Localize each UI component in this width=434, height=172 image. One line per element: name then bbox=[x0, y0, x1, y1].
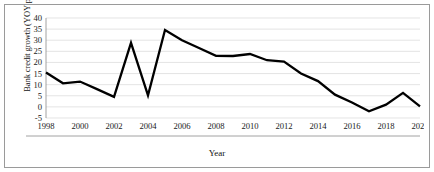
x-tick-label: 2016 bbox=[343, 121, 361, 131]
y-tick-label: 35 bbox=[33, 24, 42, 34]
y-tick-label: 10 bbox=[33, 80, 42, 90]
y-tick-label: 15 bbox=[33, 69, 42, 79]
chart-figure: Bank credit growth (YOY per cent) 403530… bbox=[0, 0, 434, 172]
x-tick-label: 2000 bbox=[71, 121, 88, 131]
y-tick-label: 0 bbox=[38, 102, 42, 112]
line-chart-svg: 4035302520151050-5 199820002002200420062… bbox=[24, 14, 424, 142]
x-tick-label: 2006 bbox=[173, 121, 191, 131]
y-tick-label: 30 bbox=[33, 35, 42, 45]
x-tick-label: 2010 bbox=[241, 121, 258, 131]
x-tick-label: 1998 bbox=[37, 121, 54, 131]
x-tick-label: 2014 bbox=[309, 121, 327, 131]
x-tick-label: 2020 bbox=[411, 121, 424, 131]
y-tick-label: 40 bbox=[33, 14, 42, 23]
y-tick-label: 20 bbox=[33, 57, 42, 67]
x-tick-labels: 1998200020022004200620082010201220142016… bbox=[37, 121, 424, 131]
y-tick-labels: 4035302520151050-5 bbox=[33, 14, 42, 123]
x-tick-label: 2012 bbox=[275, 121, 292, 131]
plot-area: 4035302520151050-5 199820002002200420062… bbox=[24, 14, 424, 142]
x-tick-label: 2002 bbox=[105, 121, 122, 131]
x-tick-label: 2018 bbox=[377, 121, 394, 131]
x-tick-label: 2004 bbox=[139, 121, 157, 131]
x-axis-title: Year bbox=[0, 148, 434, 158]
y-tick-label: 25 bbox=[33, 46, 42, 56]
x-tick-label: 2008 bbox=[207, 121, 224, 131]
data-series-line bbox=[46, 30, 420, 111]
gridlines bbox=[46, 18, 420, 118]
y-tick-label: 5 bbox=[38, 91, 42, 101]
